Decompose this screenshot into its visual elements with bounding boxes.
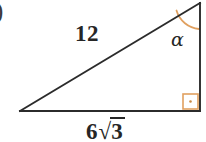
hypotenuse-line [20,3,200,111]
base-coefficient: 6 [86,119,98,142]
triangle-figure: ) 12 α 6√3 [0,0,206,142]
right-angle-marker-dot [189,100,192,103]
angle-alpha-label: α [171,30,184,49]
alpha-angle-arc [177,11,200,30]
hypotenuse-label: 12 [75,22,99,45]
base-radical: √3 [98,117,125,142]
base-label: 6√3 [86,117,125,142]
base-radicand: 3 [110,117,125,142]
